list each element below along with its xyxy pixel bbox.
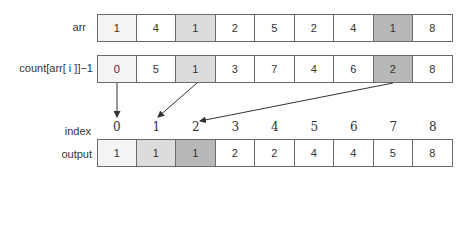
output-cell: 4 — [334, 139, 374, 167]
arrow-1 — [158, 83, 197, 117]
output-cell: 1 — [137, 139, 177, 167]
output-cell: 4 — [295, 139, 335, 167]
index-row: 0 1 2 3 4 5 6 7 8 — [97, 120, 453, 134]
output-cell: 8 — [413, 139, 453, 167]
output-cell: 2 — [216, 139, 256, 167]
index-label: index — [65, 125, 91, 137]
index-value: 6 — [334, 120, 374, 134]
index-value: 1 — [137, 120, 177, 134]
index-value: 2 — [176, 120, 216, 134]
output-cell: 2 — [255, 139, 295, 167]
index-value: 0 — [97, 120, 137, 134]
index-value: 5 — [295, 120, 335, 134]
output-cell: 5 — [374, 139, 414, 167]
output-label: output — [61, 148, 92, 160]
output-cell: 1 — [97, 139, 137, 167]
output-cell: 1 — [176, 139, 216, 167]
index-value: 7 — [374, 120, 414, 134]
output-row: 1 1 1 2 2 4 4 5 8 — [97, 139, 453, 167]
index-value: 3 — [216, 120, 256, 134]
index-value: 8 — [413, 120, 453, 134]
index-value: 4 — [255, 120, 295, 134]
arrow-2 — [200, 83, 393, 121]
